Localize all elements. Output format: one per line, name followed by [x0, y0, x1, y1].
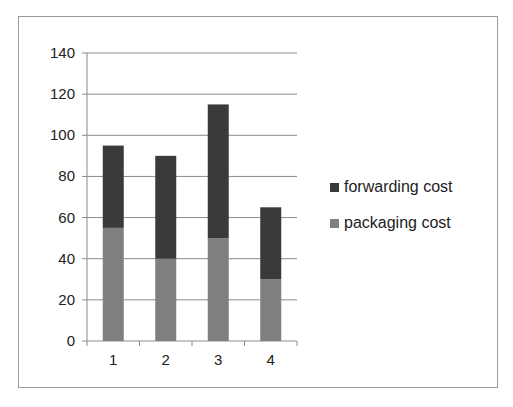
legend: forwarding cost packaging cost [330, 176, 453, 248]
legend-item-forwarding-cost: forwarding cost [330, 176, 453, 198]
legend-item-packaging-cost: packaging cost [330, 212, 453, 234]
bar-segment-packaging-cost [208, 238, 229, 341]
legend-swatch-packaging-icon [330, 219, 339, 228]
y-tick-label: 20 [58, 291, 75, 308]
bar-segment-forwarding-cost [155, 156, 176, 259]
bar-segment-forwarding-cost [103, 146, 124, 228]
y-tick-label: 0 [67, 332, 75, 349]
bar-segment-packaging-cost [103, 228, 124, 341]
y-tick-label: 120 [50, 85, 75, 102]
y-tick-label: 40 [58, 250, 75, 267]
y-tick-label: 100 [50, 126, 75, 143]
y-tick-label: 80 [58, 167, 75, 184]
x-tick-label: 2 [162, 351, 170, 368]
x-tick-label: 4 [267, 351, 275, 368]
y-tick-label: 140 [50, 44, 75, 61]
bar-segment-forwarding-cost [260, 207, 281, 279]
x-tick-label: 1 [109, 351, 117, 368]
bar-segment-forwarding-cost [208, 104, 229, 238]
legend-swatch-forwarding-icon [330, 183, 339, 192]
legend-label-packaging: packaging cost [344, 214, 451, 232]
x-tick-label: 3 [214, 351, 222, 368]
y-tick-label: 60 [58, 209, 75, 226]
bar-segment-packaging-cost [260, 279, 281, 341]
bar-segment-packaging-cost [155, 259, 176, 341]
legend-label-forwarding: forwarding cost [344, 178, 453, 196]
